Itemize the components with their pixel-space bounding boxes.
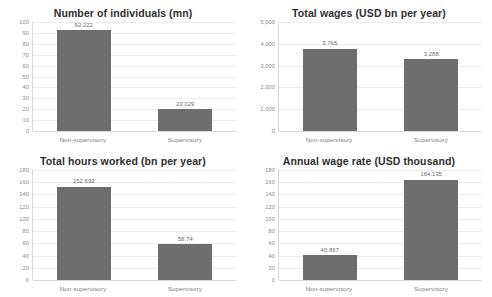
bar-series: 40.867164.135	[279, 170, 482, 280]
chart-panel-total-wages: Total wages (USD bn per year)01,0002,000…	[246, 0, 492, 148]
y-axis-tick-label: 10	[23, 117, 29, 123]
bar-value-label: 164.135	[420, 171, 442, 178]
x-axis-category-label: Non-supervisory	[278, 280, 380, 295]
bar-slot: 58.74	[135, 170, 237, 280]
gridline	[33, 280, 236, 281]
bar-value-label: 58.74	[178, 236, 193, 243]
y-axis-tick-label: 60	[269, 240, 275, 246]
x-axis-category-label: Supervisory	[134, 280, 236, 295]
bar: 58.74	[158, 244, 212, 280]
y-axis-tick-label: 40	[23, 253, 29, 259]
y-axis-tick-label: 20	[23, 106, 29, 112]
bar: 20.029	[158, 109, 212, 131]
gridline	[279, 131, 482, 132]
y-axis-tick-label: 5,000	[261, 19, 276, 25]
bar-slot: 3,288	[381, 22, 483, 131]
bar-value-label: 40.867	[321, 247, 339, 254]
y-axis-tick-label: 60	[23, 63, 29, 69]
y-axis-tick-label: 0	[26, 128, 29, 134]
chart-panel-annual-wage-rate: Annual wage rate (USD thousand)020406080…	[246, 148, 492, 297]
y-axis-tick-label: 2,000	[261, 84, 276, 90]
y-axis-tick-label: 160	[19, 179, 29, 185]
x-axis-category-label: Supervisory	[380, 280, 482, 295]
gridline	[33, 131, 236, 132]
bar-series: 3,7653,288	[279, 22, 482, 131]
bar-value-label: 3,765	[322, 40, 337, 47]
y-axis-tick-label: 80	[23, 228, 29, 234]
y-axis-tick-label: 100	[265, 216, 275, 222]
bar-slot: 20.029	[135, 22, 237, 131]
plot-area: 152.69258.74	[32, 170, 236, 280]
x-axis: Non-supervisorySupervisory	[278, 131, 482, 146]
bar-slot: 3,765	[279, 22, 381, 131]
bar-slot: 152.692	[33, 170, 135, 280]
y-axis-tick-label: 3,000	[261, 63, 276, 69]
plot-area: 3,7653,288	[278, 22, 482, 131]
x-axis: Non-supervisorySupervisory	[278, 280, 482, 295]
y-axis-tick-label: 100	[19, 19, 29, 25]
x-axis-category-label: Non-supervisory	[278, 131, 380, 146]
y-axis-tick-label: 70	[23, 52, 29, 58]
bar: 40.867	[303, 255, 357, 280]
chart-body: 02040608010012014016018040.867164.135Non…	[246, 170, 492, 297]
y-axis-tick-label: 180	[265, 167, 275, 173]
chart-title: Number of individuals (mn)	[0, 0, 246, 22]
bar: 164.135	[404, 180, 458, 280]
y-axis-tick-label: 4,000	[261, 41, 276, 47]
bar: 152.692	[57, 187, 111, 280]
bar-value-label: 20.029	[176, 101, 194, 108]
bar-slot: 164.135	[381, 170, 483, 280]
chart-grid: Number of individuals (mn)01020304050607…	[0, 0, 492, 297]
y-axis-tick-label: 120	[265, 204, 275, 210]
y-axis-tick-label: 20	[23, 265, 29, 271]
y-axis-tick-label: 140	[265, 191, 275, 197]
y-axis: 01,0002,0003,0004,0005,000	[252, 22, 278, 131]
y-axis: 0102030405060708090100	[6, 22, 32, 131]
x-axis-category-label: Non-supervisory	[32, 280, 134, 295]
x-axis: Non-supervisorySupervisory	[32, 280, 236, 295]
bar: 3,765	[303, 49, 357, 131]
chart-title: Total wages (USD bn per year)	[246, 0, 492, 22]
y-axis-tick-label: 80	[269, 228, 275, 234]
x-axis-category-label: Supervisory	[380, 131, 482, 146]
bar-series: 92.22220.029	[33, 22, 236, 131]
chart-panel-number-of-individuals: Number of individuals (mn)01020304050607…	[0, 0, 246, 148]
y-axis-tick-label: 40	[23, 84, 29, 90]
chart-body: 020406080100120140160180152.69258.74Non-…	[0, 170, 246, 297]
bar-slot: 92.222	[33, 22, 135, 131]
y-axis-tick-label: 20	[269, 265, 275, 271]
bar-value-label: 152.692	[73, 178, 95, 185]
y-axis-tick-label: 0	[26, 277, 29, 283]
x-axis-category-label: Supervisory	[134, 131, 236, 146]
bar-value-label: 3,288	[424, 51, 439, 58]
y-axis-tick-label: 1,000	[261, 106, 276, 112]
chart-panel-total-hours-worked: Total hours worked (bn per year)02040608…	[0, 148, 246, 297]
y-axis-tick-label: 40	[269, 253, 275, 259]
y-axis-tick-label: 80	[23, 41, 29, 47]
gridline	[279, 280, 482, 281]
bar-series: 152.69258.74	[33, 170, 236, 280]
y-axis-tick-label: 160	[265, 179, 275, 185]
y-axis-tick-label: 60	[23, 240, 29, 246]
y-axis-tick-label: 30	[23, 95, 29, 101]
bar: 3,288	[404, 59, 458, 131]
bar: 92.222	[57, 30, 111, 131]
chart-title: Annual wage rate (USD thousand)	[246, 148, 492, 170]
bar-value-label: 92.222	[75, 22, 93, 29]
chart-body: 01,0002,0003,0004,0005,0003,7653,288Non-…	[246, 22, 492, 148]
y-axis-tick-label: 180	[19, 167, 29, 173]
chart-title: Total hours worked (bn per year)	[0, 148, 246, 170]
y-axis-tick-label: 90	[23, 30, 29, 36]
bar-slot: 40.867	[279, 170, 381, 280]
y-axis-tick-label: 50	[23, 74, 29, 80]
y-axis: 020406080100120140160180	[252, 170, 278, 280]
y-axis-tick-label: 0	[272, 277, 275, 283]
x-axis: Non-supervisorySupervisory	[32, 131, 236, 146]
y-axis-tick-label: 100	[19, 216, 29, 222]
y-axis: 020406080100120140160180	[6, 170, 32, 280]
y-axis-tick-label: 120	[19, 204, 29, 210]
plot-area: 92.22220.029	[32, 22, 236, 131]
x-axis-category-label: Non-supervisory	[32, 131, 134, 146]
plot-area: 40.867164.135	[278, 170, 482, 280]
y-axis-tick-label: 140	[19, 191, 29, 197]
